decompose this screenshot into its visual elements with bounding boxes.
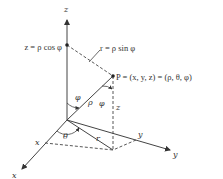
x-axis-label: x	[12, 171, 17, 179]
point-P-label: P = (x, y, z) = (ρ, θ, φ)	[116, 72, 192, 82]
theta-arc	[57, 128, 79, 135]
y-coord-label: y	[137, 130, 143, 139]
z-height-label: z	[115, 103, 121, 112]
phi-origin-label: φ	[75, 93, 81, 102]
phi-arc-P	[102, 86, 112, 89]
theta-label: θ	[63, 132, 68, 141]
phi-arc-origin	[67, 103, 79, 108]
dashed-x-to-foot	[45, 143, 113, 150]
spherical-coordinates-diagram: z x y z = ρ cos φ r = ρ sin φ P = (x, y,…	[0, 0, 223, 179]
phi-P-label: φ	[99, 99, 105, 108]
z-axis-label: z	[63, 5, 69, 14]
x-coord-label: x	[35, 138, 40, 147]
rho-label: ρ	[87, 98, 93, 107]
y-axis-label: y	[172, 150, 178, 159]
r-equation-label: r = ρ sin φ	[100, 43, 135, 53]
point-P	[111, 74, 115, 78]
z-projection-label: z = ρ cos φ	[24, 42, 62, 52]
r-label-leader	[89, 50, 100, 62]
r-line	[67, 120, 113, 150]
y-axis	[67, 120, 170, 150]
z-projection-point	[65, 43, 69, 47]
dashed-y-to-foot	[113, 140, 136, 150]
